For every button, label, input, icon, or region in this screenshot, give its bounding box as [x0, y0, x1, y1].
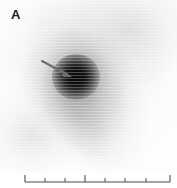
- ruler-scale-bar: [0, 172, 177, 188]
- scintigraphy-scan-image: [0, 0, 177, 172]
- ruler-geometry: [25, 175, 170, 182]
- arrow-glyph: [42, 61, 72, 77]
- figure-panel-a: A: [0, 0, 177, 188]
- pointer-arrow-icon: [41, 58, 75, 80]
- panel-label: A: [11, 8, 21, 21]
